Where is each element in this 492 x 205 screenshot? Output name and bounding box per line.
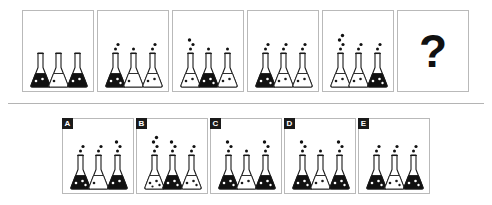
sequence-panel-3 [172, 10, 244, 92]
sequence-panel-6: ? [397, 10, 469, 92]
sequence-panel-1 [22, 10, 94, 92]
analogy-puzzle: ? ABCDE [0, 0, 492, 205]
panel-inner: ? [398, 11, 468, 91]
option-panel-e[interactable]: E [358, 118, 430, 194]
panel-inner: C [211, 119, 281, 193]
panel-inner [173, 11, 243, 91]
panel-inner: E [359, 119, 429, 193]
option-panel-c[interactable]: C [210, 118, 282, 194]
option-label-c: C [210, 118, 221, 129]
flask-3-light [217, 29, 246, 87]
panel-inner [98, 11, 168, 91]
option-panel-d[interactable]: D [284, 118, 356, 194]
option-panel-b[interactable]: B [136, 118, 208, 194]
flask-3-light [292, 29, 321, 87]
option-label-b: B [136, 118, 147, 129]
panel-inner: A [63, 119, 133, 193]
flask-3-dark [329, 131, 358, 189]
option-label-a: A [62, 118, 73, 129]
flask-3-dark [403, 131, 432, 189]
panel-inner [323, 11, 393, 91]
sequence-panel-2 [97, 10, 169, 92]
flask-3-dark [67, 29, 96, 87]
flask-3-dark [367, 29, 396, 87]
option-label-e: E [358, 118, 369, 129]
question-mark: ? [398, 11, 468, 91]
flask-3-dark [107, 131, 136, 189]
section-divider [8, 103, 484, 104]
flask-3-dark [255, 131, 284, 189]
panel-inner [23, 11, 93, 91]
sequence-panel-4 [247, 10, 319, 92]
panel-inner [248, 11, 318, 91]
sequence-panel-5 [322, 10, 394, 92]
panel-inner: B [137, 119, 207, 193]
flask-3-light [142, 29, 171, 87]
option-label-d: D [284, 118, 295, 129]
option-panel-a[interactable]: A [62, 118, 134, 194]
flask-3-light [181, 131, 210, 189]
panel-inner: D [285, 119, 355, 193]
